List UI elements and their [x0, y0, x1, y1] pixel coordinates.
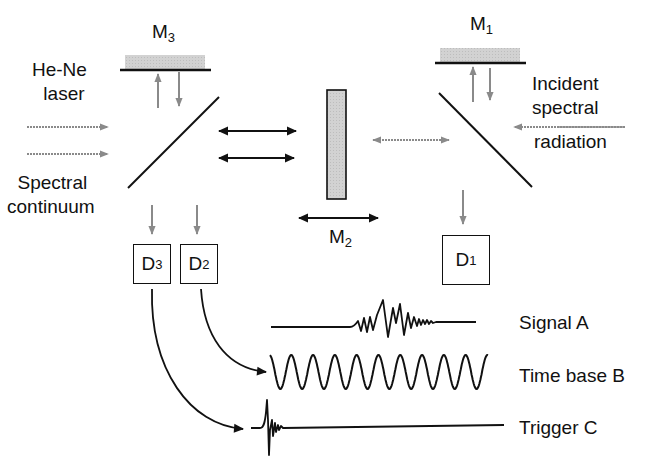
signal-a-waveform: [271, 300, 476, 337]
d1-name: D: [456, 249, 470, 271]
spectral-line1: Spectral: [10, 171, 95, 195]
trigger-c-waveform: [251, 400, 504, 455]
label-m2: M2: [329, 226, 352, 254]
hene-line2: laser: [32, 82, 87, 106]
label-time-base-b: Time base B: [519, 365, 625, 387]
mirror-m3: [120, 55, 211, 70]
m3-beam-arrows: [158, 72, 179, 108]
label-trigger-c: Trigger C: [519, 417, 597, 439]
m2-subscript: 2: [345, 235, 352, 250]
label-hene-laser: He-Ne laser: [32, 58, 87, 106]
time-base-b-waveform: [270, 355, 488, 389]
d3-name: D: [142, 253, 156, 275]
detector-connectors: [152, 289, 266, 429]
label-signal-a: Signal A: [519, 312, 589, 334]
mirror-m1: [435, 48, 526, 63]
mirror-m2: [327, 90, 346, 199]
m3-subscript: 3: [168, 30, 175, 45]
m2-name: M: [329, 226, 345, 247]
label-m3: M3: [152, 21, 175, 49]
m1-name: M: [470, 13, 486, 34]
detector-d2: D2: [180, 244, 218, 284]
spectral-line2: continuum: [7, 195, 95, 219]
incident-line2: spectral: [532, 96, 607, 120]
m1-beam-arrows: [473, 67, 490, 102]
m1-subscript: 1: [486, 22, 493, 37]
beamsplitter-left: [128, 97, 219, 188]
label-incident-radiation: Incident spectral radiation: [532, 72, 607, 154]
detector-d1: D1: [442, 235, 490, 285]
input-beam-arrows: [27, 127, 108, 154]
d2-name: D: [189, 253, 203, 275]
label-m1: M1: [470, 13, 493, 41]
label-spectral-continuum: Spectral continuum: [10, 171, 95, 219]
beamsplitter-right: [439, 93, 532, 187]
hene-line1: He-Ne: [32, 58, 87, 82]
incident-line3: radiation: [532, 130, 607, 154]
d2-subscript: 2: [202, 257, 209, 272]
incident-line1: Incident: [532, 72, 607, 96]
path-arrows-left: [219, 131, 296, 158]
m3-name: M: [152, 21, 168, 42]
d1-subscript: 1: [469, 253, 476, 268]
detector-d3: D3: [133, 244, 171, 284]
detector-beam-arrows: [152, 190, 463, 234]
d3-subscript: 3: [155, 257, 162, 272]
